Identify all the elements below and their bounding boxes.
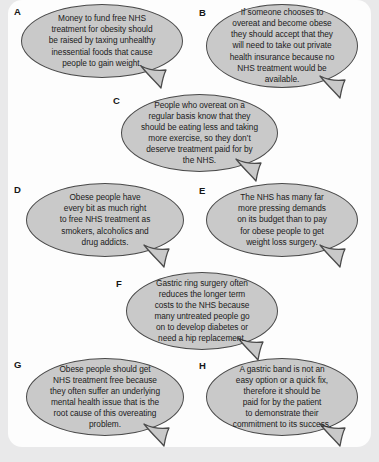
speech-bubble-e-label: E: [199, 185, 205, 196]
speech-bubble-e-text: The NHS has many far more pressing deman…: [218, 192, 347, 247]
speech-bubble-a[interactable]: Money to fund free NHS treatment for obe…: [21, 4, 183, 78]
speech-bubble-b-oval: If someone chooses to overeat and become…: [206, 4, 358, 88]
speech-bubble-b[interactable]: If someone chooses to overeat and become…: [206, 4, 358, 88]
speech-bubble-c-text: People who overeat on a regular basis kn…: [133, 100, 266, 167]
speech-bubble-d-text: Obese people have every bit as much righ…: [38, 192, 172, 247]
speech-bubble-g[interactable]: Obese people should get NHS treatment fr…: [26, 358, 184, 436]
speech-bubble-a-text: Money to fund free NHS treatment for obe…: [33, 13, 171, 68]
speech-bubble-g-oval: Obese people should get NHS treatment fr…: [26, 358, 184, 436]
speech-bubble-f-oval: Gastric ring surgery often reduces the l…: [126, 272, 278, 350]
speech-bubble-d-label: D: [14, 184, 21, 195]
speech-bubble-a-label: A: [14, 6, 21, 17]
speech-bubble-c[interactable]: People who overeat on a regular basis kn…: [121, 94, 278, 172]
speech-bubble-h-label: H: [199, 360, 206, 371]
speech-bubble-d[interactable]: Obese people have every bit as much righ…: [26, 183, 184, 257]
speech-bubble-b-label: B: [199, 7, 206, 18]
speech-bubble-c-oval: People who overeat on a regular basis kn…: [121, 94, 278, 172]
speech-bubble-g-text: Obese people should get NHS treatment fr…: [38, 364, 172, 431]
speech-bubble-d-oval: Obese people have every bit as much righ…: [26, 183, 184, 257]
speech-bubble-h-text: A gastric band is not an easy option or …: [218, 364, 347, 431]
speech-bubble-h-oval: A gastric band is not an easy option or …: [206, 358, 358, 436]
speech-bubble-g-label: G: [14, 359, 21, 370]
page-root: Money to fund free NHS treatment for obe…: [0, 0, 379, 462]
speech-bubble-c-label: C: [113, 95, 120, 106]
speech-bubble-f-text: Gastric ring surgery often reduces the l…: [138, 278, 267, 345]
white-card-panel: Money to fund free NHS treatment for obe…: [8, 0, 371, 447]
speech-bubble-e-oval: The NHS has many far more pressing deman…: [206, 183, 358, 257]
speech-bubble-h[interactable]: A gastric band is not an easy option or …: [206, 358, 358, 436]
speech-bubble-a-oval: Money to fund free NHS treatment for obe…: [21, 4, 183, 78]
speech-bubble-b-text: If someone chooses to overeat and become…: [218, 7, 347, 85]
speech-bubble-f-label: F: [116, 278, 122, 289]
speech-bubble-e[interactable]: The NHS has many far more pressing deman…: [206, 183, 358, 257]
speech-bubble-f[interactable]: Gastric ring surgery often reduces the l…: [126, 272, 278, 350]
